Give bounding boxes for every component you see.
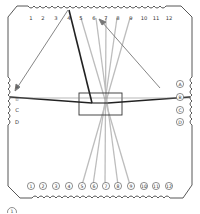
right-label-c: C (176, 106, 183, 113)
left-label-a: A (15, 84, 19, 90)
svg-text:9: 9 (130, 184, 133, 189)
top-label: 2 (41, 15, 44, 21)
svg-text:3: 3 (55, 184, 58, 189)
board-outline (8, 6, 192, 198)
center-box (79, 93, 122, 115)
right-label-a: A (176, 80, 183, 87)
svg-text:4: 4 (68, 184, 71, 189)
top-label: 10 (141, 15, 148, 21)
svg-text:B: B (178, 95, 181, 100)
bottom-label-11: 11 (152, 182, 159, 189)
bottom-label-1: 1 (27, 182, 34, 189)
right-labels: A B C D (176, 80, 183, 125)
bottom-label-2: 2 (39, 182, 46, 189)
arrow-top4-to-left-a (17, 10, 68, 88)
top-label: 11 (153, 15, 160, 21)
svg-text:6: 6 (93, 184, 96, 189)
bottom-labels: 1 2 3 4 5 6 7 8 9 10 11 12 (27, 182, 172, 189)
svg-text:1: 1 (11, 209, 14, 214)
svg-text:12: 12 (166, 184, 172, 189)
svg-text:10: 10 (141, 184, 147, 189)
bottom-label-10: 10 (140, 182, 147, 189)
svg-text:1: 1 (30, 184, 33, 189)
strand-top4-center (69, 10, 92, 103)
bottom-label-6: 6 (90, 182, 97, 189)
svg-text:2: 2 (42, 184, 45, 189)
top-label: 6 (92, 15, 95, 21)
left-label-d: D (15, 119, 19, 125)
bottom-label-8: 8 (114, 182, 121, 189)
top-label: 9 (129, 15, 132, 21)
left-label-b: B (15, 96, 19, 102)
svg-text:C: C (178, 108, 181, 113)
top-label: 3 (54, 15, 57, 21)
right-label-d: D (176, 118, 183, 125)
bottom-label-9: 9 (127, 182, 134, 189)
top-label: 12 (166, 15, 173, 21)
left-label-c: C (15, 107, 19, 113)
svg-text:5: 5 (81, 184, 84, 189)
svg-text:8: 8 (117, 184, 120, 189)
bottom-label-7: 7 (102, 182, 109, 189)
bottom-label-5: 5 (78, 182, 85, 189)
strand-top6-bottom8 (96, 18, 118, 185)
top-label: 8 (116, 15, 119, 21)
bottom-label-3: 3 (52, 182, 59, 189)
lacing-diagram: 1 2 3 4 5 6 7 8 9 10 11 12 1 2 3 4 5 6 7… (0, 0, 200, 213)
top-label: 7 (104, 15, 107, 21)
bottom-label-4: 4 (65, 182, 72, 189)
top-label: 5 (79, 15, 82, 21)
bottom-label-12: 12 (165, 182, 172, 189)
arrow-right-a-to-top6 (102, 22, 160, 88)
svg-text:D: D (178, 120, 182, 125)
arrows (15, 10, 160, 91)
footer-marker: 1 (8, 208, 17, 214)
right-label-b: B (176, 93, 183, 100)
svg-text:7: 7 (105, 184, 108, 189)
dark-strands (10, 10, 190, 103)
top-label: 1 (29, 15, 32, 21)
svg-text:11: 11 (153, 184, 159, 189)
